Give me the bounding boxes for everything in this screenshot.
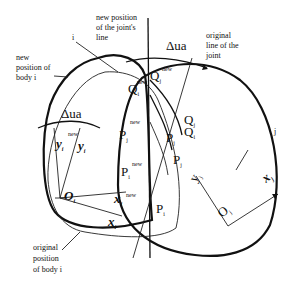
arrow-icon [272,194,278,199]
text-line: body i [16,73,37,82]
point-Qi-new: Qi new [128,79,148,97]
axis-label-yi-new: yi new [54,131,79,152]
svg-text:Oj: Oj [214,201,233,221]
svg-text:new: new [162,66,173,72]
svg-text:Pj: Pj [119,127,128,143]
text-line: position of [16,63,51,72]
text-line: line [96,33,108,42]
point-Pj-a: Pj [166,130,175,146]
body-i-label: i [72,33,75,42]
original-joint-line [133,58,192,258]
origin-Oj: Oj [214,201,233,221]
svg-text:yj: yj [186,170,204,185]
svg-text:yi: yi [76,138,86,154]
svg-text:xj: xj [258,168,276,186]
axis-label-xi: xi [107,214,117,230]
axis-label-yj: yj [186,170,204,185]
svg-text:new: new [130,119,141,125]
svg-text:new: new [132,161,143,167]
annotation-new-joint-line: new position of the joint's line [96,13,137,42]
text-line: original [206,31,232,40]
kinematic-joint-diagram: new position of the joint's line origina… [0,0,294,288]
axis-label-xj: xj [258,168,276,186]
point-Pi: Pi [156,201,165,217]
axis-label-xi-new: xi new [113,191,137,207]
text-line: new position [96,13,137,22]
svg-text:Pi: Pi [156,201,165,217]
annotation-original-joint-line: original line of the joint [205,31,239,60]
svg-text:yi: yi [54,136,64,152]
svg-text:new: new [126,192,137,198]
svg-text:xi: xi [113,191,123,207]
leader-body-j [236,150,248,170]
delta-ua-right: Δua [166,38,187,53]
origin-Oi: Oi [64,188,75,204]
text-line: joint [205,51,221,60]
svg-text:Oi: Oi [64,188,75,204]
delta-ua-arc-left [38,121,100,128]
leader-body-i [76,42,118,72]
text-line: original [33,243,59,252]
svg-text:Qj: Qj [150,68,161,84]
body-j-label: j [273,127,276,136]
text-line: new [16,53,30,62]
text-line: position [33,254,59,263]
point-Pj-b: Pj [173,152,182,168]
svg-text:new: new [68,131,79,137]
text-line: of body i [33,265,63,274]
annotation-original-body-i: original position of body i [33,243,63,274]
point-Qj-new: Qj new [150,66,173,84]
text-line: line of the [206,41,239,50]
svg-text:xi: xi [107,214,117,230]
svg-text:Pj: Pj [166,130,175,146]
delta-ua-left: Δua [61,106,82,121]
annotation-new-body-i: new position of body i [16,53,51,82]
svg-text:Pj: Pj [173,152,182,168]
axis-label-yi: yi [76,138,86,154]
leader-original-body-i [62,232,80,250]
svg-text:new: new [137,79,148,85]
svg-text:Pi: Pi [121,164,130,180]
text-line: of the joint's [96,23,136,32]
point-Pi-new: Pi new [121,161,143,180]
